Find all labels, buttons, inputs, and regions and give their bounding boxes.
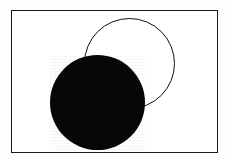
paper-grain-overlay (50, 55, 145, 150)
shapes-canvas (12, 11, 217, 152)
border-frame (11, 10, 218, 153)
filled-circle (50, 55, 145, 150)
figure-root (0, 0, 226, 160)
